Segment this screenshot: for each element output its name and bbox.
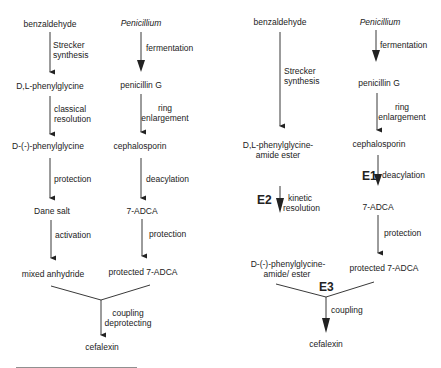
step-label: enlargement bbox=[141, 113, 188, 123]
node-cephalosporin: cephalosporin bbox=[353, 139, 406, 149]
step-label: activation bbox=[55, 230, 91, 240]
step-label: coupling bbox=[331, 305, 363, 315]
step-label: coupling bbox=[112, 308, 144, 318]
node-dl-phenylglycine-amide-ester-line2: amide ester bbox=[256, 150, 300, 160]
node-mixed-anhydride: mixed anhydride bbox=[22, 269, 84, 279]
step-label: synthesis bbox=[284, 76, 319, 86]
node-cefalexin: cefalexin bbox=[85, 342, 119, 352]
node-cefalexin: cefalexin bbox=[309, 339, 343, 349]
node-7-adca: 7-ADCA bbox=[126, 206, 157, 216]
enzyme-e1: E1 bbox=[362, 169, 377, 183]
node-dl-phenylglycine: D,L-phenylglycine bbox=[16, 81, 84, 91]
node-protected-7-adca: protected 7-ADCA bbox=[350, 263, 419, 273]
step-label: protection bbox=[149, 229, 186, 239]
step-label: synthesis bbox=[53, 50, 88, 60]
node-d-phenylglycine-amide-ester: D-(-)-phenylglycine- bbox=[251, 259, 326, 269]
step-label: deprotecting bbox=[105, 318, 152, 328]
step-label: kinetic bbox=[288, 193, 312, 203]
step-label: deacylation bbox=[382, 170, 425, 180]
node-cephalosporin: cephalosporin bbox=[114, 141, 167, 151]
node-dl-phenylglycine-amide-ester: D,L-phenylglycine- bbox=[243, 140, 313, 150]
step-label: enlargement bbox=[378, 112, 425, 122]
enzyme-e2: E2 bbox=[257, 193, 272, 207]
step-label: resolution bbox=[283, 203, 320, 213]
step-label: protection bbox=[54, 174, 91, 184]
node-benzaldehyde: benzaldehyde bbox=[24, 19, 77, 29]
step-label: Strecker bbox=[284, 66, 316, 76]
node-penicillin-g: penicillin G bbox=[120, 80, 162, 90]
node-penicillium: Penicillium bbox=[360, 17, 401, 27]
node-penicillium: Penicillium bbox=[121, 18, 162, 28]
node-d-phenylglycine-amide-ester-line2: amide/ ester bbox=[264, 269, 311, 279]
step-label: fermentation bbox=[380, 40, 427, 50]
step-label: deacylation bbox=[146, 174, 189, 184]
step-label: protection bbox=[384, 228, 421, 238]
step-label: ring bbox=[395, 102, 409, 112]
step-label: fermentation bbox=[146, 43, 193, 53]
node-benzaldehyde: benzaldehyde bbox=[254, 17, 307, 27]
step-label: classical bbox=[54, 104, 86, 114]
node-dane-salt: Dane salt bbox=[34, 206, 70, 216]
node-d-phenylglycine: D-(-)-phenylglycine bbox=[12, 141, 84, 151]
enzyme-e3: E3 bbox=[319, 280, 334, 294]
node-penicillin-g: penicillin G bbox=[358, 78, 400, 88]
node-7-adca: 7-ADCA bbox=[362, 202, 393, 212]
step-label: Strecker bbox=[53, 40, 85, 50]
step-label: resolution bbox=[54, 114, 91, 124]
node-protected-7-adca: protected 7-ADCA bbox=[109, 267, 178, 277]
step-label: ring bbox=[158, 103, 172, 113]
